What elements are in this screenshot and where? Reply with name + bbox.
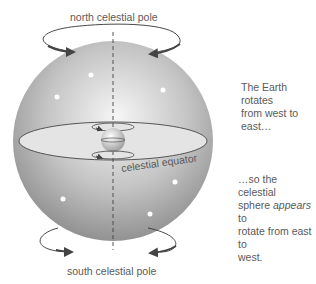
caption-line: west.: [238, 251, 316, 264]
caption-line: sphere appears to: [238, 199, 316, 225]
sphere-rotation-caption: …so the celestial sphere appears to rota…: [238, 173, 316, 264]
caption-line: rotate from east to: [238, 225, 316, 251]
caption-line: …so the celestial: [238, 173, 316, 199]
caption-line: The Earth rotates: [241, 81, 316, 107]
caption-line: from west to east…: [241, 107, 316, 133]
caption-emphasis: appears: [273, 199, 311, 211]
caption-text: to: [238, 212, 247, 224]
caption-text: sphere: [238, 199, 273, 211]
south-celestial-pole-label: south celestial pole: [67, 265, 156, 277]
north-celestial-pole-label: north celestial pole: [70, 11, 158, 23]
earth-rotation-caption: The Earth rotates from west to east…: [241, 81, 316, 133]
